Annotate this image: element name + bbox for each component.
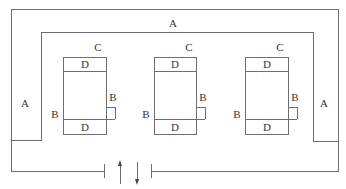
unit-3: C D D B B <box>233 41 298 134</box>
unit-1-label-c: C <box>94 41 101 53</box>
unit-3-side-tab <box>288 107 298 119</box>
unit-1-label-b-left: B <box>51 108 58 120</box>
label-right-corridor: A <box>320 97 328 109</box>
down-arrow-icon <box>135 162 139 185</box>
diagram-svg: A A A C D D B B C D D B B <box>0 0 346 189</box>
outer-boundary <box>11 9 338 171</box>
unit-2-label-b-right: B <box>199 91 206 103</box>
unit-1-side-tab <box>106 107 116 119</box>
unit-1: C D D B B <box>51 41 116 134</box>
unit-3-label-c: C <box>276 41 283 53</box>
label-top-corridor: A <box>169 17 177 29</box>
unit-1-cell-top: D <box>81 58 89 70</box>
unit-2-side-tab <box>196 107 206 119</box>
outer-wall <box>11 9 338 171</box>
unit-3-label-b-left: B <box>233 108 240 120</box>
unit-3-cell-top: D <box>263 58 271 70</box>
unit-3-cell-bottom: D <box>263 121 271 133</box>
unit-1-label-b-right: B <box>109 91 116 103</box>
unit-2-label-b-left: B <box>142 108 149 120</box>
unit-1-cell-bottom: D <box>81 121 89 133</box>
unit-3-label-b-right: B <box>291 91 298 103</box>
up-arrow-icon <box>118 160 122 184</box>
unit-2-cell-bottom: D <box>171 121 179 133</box>
unit-2-label-c: C <box>185 41 192 53</box>
site-layout-diagram: A A A C D D B B C D D B B <box>0 0 346 189</box>
entrance-gate <box>104 160 151 185</box>
label-left-corridor: A <box>21 97 29 109</box>
unit-2: C D D B B <box>142 41 206 134</box>
unit-2-cell-top: D <box>171 58 179 70</box>
